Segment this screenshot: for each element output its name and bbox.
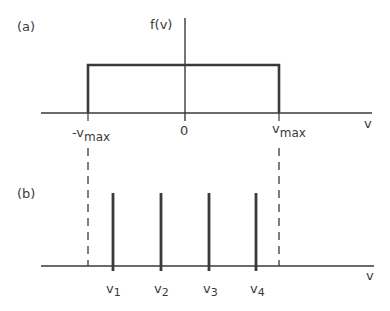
panel-b-label: (b): [17, 186, 35, 201]
x-axis-label-a: v: [364, 116, 372, 131]
y-axis-label: f(v): [150, 17, 172, 32]
x-axis-label-b: v: [366, 268, 374, 283]
diagram-canvas: (a) f(v) -vmax 0 vmax v (b) v1 v2 v3 v4 …: [0, 0, 390, 311]
uniform-distribution-rect: [88, 65, 279, 113]
panel-b: (b) v1 v2 v3 v4 v: [17, 186, 374, 299]
label-v2: v2: [154, 281, 169, 299]
tick-label-neg-vmax: -vmax: [72, 125, 110, 144]
label-v4: v4: [250, 281, 265, 299]
panel-a-label: (a): [17, 19, 35, 34]
tick-label-zero: 0: [180, 123, 188, 138]
tick-label-vmax: vmax: [272, 121, 306, 140]
label-v3: v3: [203, 281, 218, 299]
label-v1: v1: [106, 281, 121, 299]
panel-a: (a) f(v) -vmax 0 vmax v: [17, 17, 372, 144]
